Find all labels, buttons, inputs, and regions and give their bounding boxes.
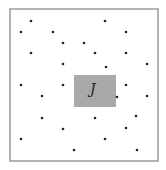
- point: [136, 149, 139, 152]
- point: [20, 84, 23, 87]
- point: [105, 66, 108, 69]
- point: [30, 20, 33, 23]
- point: [104, 138, 107, 141]
- point: [125, 52, 128, 55]
- point: [62, 42, 65, 45]
- point: [52, 31, 55, 34]
- point: [94, 117, 97, 120]
- point: [146, 95, 149, 98]
- point: [41, 117, 44, 120]
- point: [135, 115, 138, 118]
- point: [125, 127, 128, 130]
- point: [62, 63, 65, 66]
- point: [125, 31, 128, 34]
- point: [116, 96, 119, 99]
- point: [30, 52, 33, 55]
- point-diagram: [0, 0, 166, 170]
- point: [20, 138, 23, 141]
- point: [62, 84, 65, 87]
- point: [125, 84, 128, 87]
- point: [146, 63, 149, 66]
- point: [104, 20, 107, 23]
- point: [20, 31, 23, 34]
- region-label: J: [90, 81, 96, 97]
- point: [83, 42, 86, 45]
- point: [41, 95, 44, 98]
- point: [73, 149, 76, 152]
- point: [62, 128, 65, 131]
- point: [94, 52, 97, 55]
